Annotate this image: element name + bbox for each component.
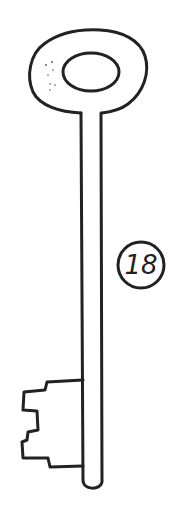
number-badge: 18 (118, 242, 164, 288)
key-shaft (81, 113, 102, 488)
key-bit (22, 380, 83, 467)
key-drawing: 18 (0, 0, 185, 514)
bow-speckles (45, 61, 56, 91)
key-bow-hole (63, 53, 119, 91)
badge-number: 18 (124, 250, 157, 280)
key-bow (30, 30, 147, 113)
